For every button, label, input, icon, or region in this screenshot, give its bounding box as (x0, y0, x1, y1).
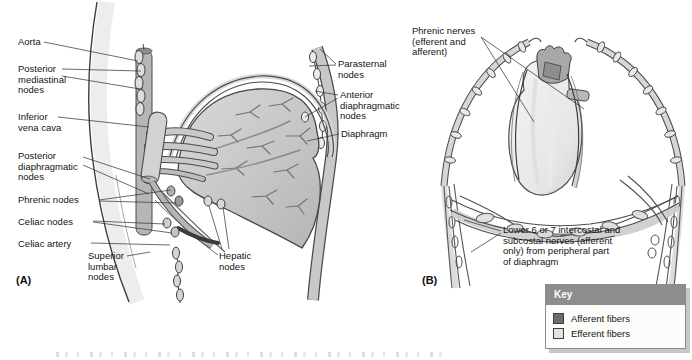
panel-a-illustration (89, 2, 334, 303)
cropped-caption-remnant (56, 352, 446, 357)
afferent-fibers-swatch (553, 313, 564, 324)
label-hepatic-nodes: Hepatic nodes (219, 251, 251, 272)
efferent-fibers-label: Efferent fibers (571, 328, 630, 339)
key-title: Key (546, 285, 685, 305)
figure-canvas: Aorta Posterior mediastinal nodes Inferi… (0, 0, 692, 360)
label-phrenic-nerves: Phrenic nerves (efferent and afferent) (412, 26, 475, 58)
panel-b-letter: (B) (422, 274, 437, 286)
superior-lumbar-node-chain (173, 247, 184, 303)
label-superior-lumbar-nodes: Superior lumbar nodes (88, 251, 124, 283)
key-legend: Key Afferent fibers Efferent fibers (545, 284, 686, 349)
label-diaphragm: Diaphragm (341, 129, 387, 140)
key-entry-afferent: Afferent fibers (553, 311, 679, 326)
diaphragm-dome (178, 89, 320, 248)
key-body: Afferent fibers Efferent fibers (546, 305, 685, 348)
label-inferior-vena-cava: Inferior vena cava (18, 112, 61, 133)
label-intercostal-nerves: Lower 6 or 7 intercostal and subcostal n… (503, 225, 620, 267)
label-posterior-mediastinal-nodes: Posterior mediastinal nodes (18, 64, 66, 96)
label-celiac-nodes: Celiac nodes (18, 217, 73, 228)
label-anterior-diaphragmatic-nodes: Anterior diaphragmatic nodes (340, 90, 400, 122)
efferent-fibers-swatch (553, 328, 564, 339)
label-posterior-diaphragmatic-nodes: Posterior diaphragmatic nodes (18, 151, 78, 183)
pericardium-sac (509, 46, 590, 195)
key-entry-efferent: Efferent fibers (553, 326, 679, 341)
afferent-fibers-label: Afferent fibers (571, 313, 630, 324)
label-phrenic-nodes: Phrenic nodes (18, 195, 79, 206)
panel-a-letter: (A) (16, 274, 31, 286)
label-parasternal-nodes: Parasternal nodes (338, 59, 387, 80)
label-aorta: Aorta (18, 37, 41, 48)
label-celiac-artery: Celiac artery (18, 239, 71, 250)
